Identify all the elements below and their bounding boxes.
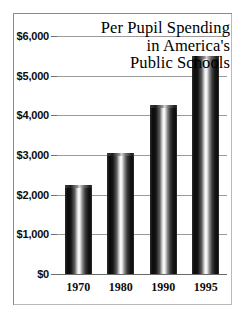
bar-1995 [192,56,219,274]
chart-title-line-1: Per Pupil Spending [101,19,230,37]
bar-1980 [107,153,134,274]
gridline-0 [57,274,227,275]
bar-cap [107,153,134,156]
x-axis-label-1980: 1980 [109,280,133,295]
y-axis-tick [51,274,57,275]
bar-1990 [150,105,177,274]
y-axis-label: $1,000 [17,228,49,240]
y-axis-tick [51,76,57,77]
y-axis-tick [51,195,57,196]
y-axis-tick [51,115,57,116]
x-axis-label-1995: 1995 [194,280,218,295]
y-axis-label: $4,000 [17,109,49,121]
y-axis-label: $6,000 [17,30,49,42]
chart-figure: Per Pupil Spending in America's Public S… [0,0,244,321]
bar-cap [150,105,177,108]
y-axis-label: $3,000 [17,149,49,161]
y-axis-label: $5,000 [17,70,49,82]
y-axis-tick [51,36,57,37]
bar-cap [65,185,92,188]
chart-title: Per Pupil Spending in America's Public S… [101,19,230,72]
bar-1970 [65,185,92,274]
y-axis-tick [51,234,57,235]
chart-title-line-3: Public Schools [101,54,230,72]
y-axis-tick [51,155,57,156]
x-axis-label-1990: 1990 [151,280,175,295]
chart-title-line-2: in America's [101,37,230,55]
y-axis-label: $2,000 [17,189,49,201]
x-axis-label-1970: 1970 [66,280,90,295]
y-axis-label: $0 [37,268,49,280]
